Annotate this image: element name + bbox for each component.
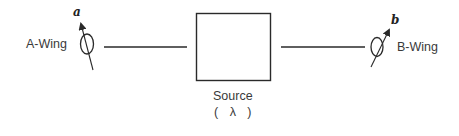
a-wing-label: A-Wing [26, 37, 67, 51]
source-box [197, 14, 271, 81]
source-parameter-label: ( λ ) [214, 105, 256, 119]
a-wing-polarizer-icon [81, 24, 94, 70]
b-setting-label: b [391, 13, 399, 27]
a-setting-label: a [73, 5, 81, 19]
b-wing-label: B-Wing [397, 40, 438, 54]
b-wing-polarizer-icon [371, 30, 389, 67]
source-label: Source [213, 89, 253, 103]
